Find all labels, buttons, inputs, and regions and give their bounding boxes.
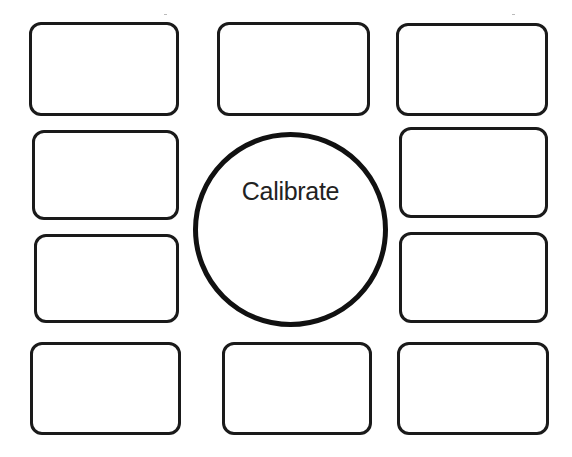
speck	[512, 14, 515, 15]
calibrate-label: Calibrate	[198, 177, 383, 206]
target-box-top-right[interactable]	[396, 23, 548, 116]
target-box-row2-left[interactable]	[32, 130, 179, 220]
calibrate-button[interactable]: Calibrate	[193, 132, 388, 327]
target-box-bottom-center[interactable]	[222, 342, 372, 435]
speck	[164, 14, 167, 15]
target-box-row2-right[interactable]	[399, 127, 548, 218]
target-box-top-left[interactable]	[29, 22, 179, 116]
target-box-bottom-right[interactable]	[397, 342, 549, 435]
target-box-bottom-left[interactable]	[30, 342, 181, 435]
target-box-row3-right[interactable]	[399, 232, 548, 323]
target-box-top-center[interactable]	[217, 22, 370, 116]
target-box-row3-left[interactable]	[34, 234, 179, 323]
